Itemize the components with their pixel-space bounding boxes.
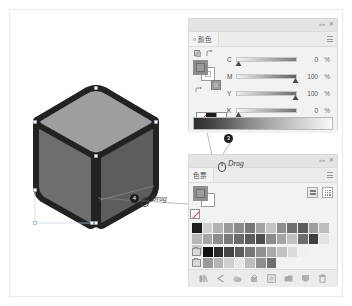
- swatch[interactable]: [203, 247, 213, 257]
- swatch[interactable]: [224, 223, 234, 233]
- color-panel-window-buttons[interactable]: »» ✕: [319, 20, 334, 29]
- swatch[interactable]: [213, 223, 223, 233]
- swatch[interactable]: [234, 234, 244, 244]
- fill-swatch[interactable]: [193, 60, 208, 75]
- edit-swatch-icon[interactable]: [250, 274, 259, 283]
- swatch[interactable]: [213, 234, 223, 244]
- color-group-folder-icon[interactable]: [192, 248, 201, 256]
- swatch[interactable]: [266, 234, 276, 244]
- close-icon[interactable]: ✕: [329, 156, 334, 165]
- swatch[interactable]: [277, 234, 287, 244]
- swatch[interactable]: [267, 247, 277, 257]
- delete-swatch-icon[interactable]: [318, 274, 327, 283]
- new-swatch-icon[interactable]: [301, 274, 310, 283]
- new-swatch-folder-icon[interactable]: [284, 274, 293, 283]
- slider-row-y[interactable]: Y 100 %: [227, 85, 334, 102]
- slider-track-c[interactable]: [236, 57, 297, 62]
- default-fill-stroke-button[interactable]: [211, 80, 221, 90]
- slider-value-k[interactable]: 0: [302, 107, 318, 114]
- swatch[interactable]: [266, 223, 276, 233]
- swatch[interactable]: [267, 258, 277, 268]
- swatch[interactable]: [245, 247, 255, 257]
- color-group-folder-icon[interactable]: [192, 259, 201, 267]
- chevrons-right-icon[interactable]: »»: [319, 20, 325, 29]
- slider-row-m[interactable]: M 100 %: [227, 68, 334, 85]
- swatch[interactable]: [234, 223, 244, 233]
- slider-value-y[interactable]: 100: [302, 90, 318, 97]
- fill-stroke-widget[interactable]: [193, 60, 218, 82]
- color-panel-titlebar[interactable]: »» ✕: [189, 19, 337, 32]
- panel-menu-icon[interactable]: [327, 172, 333, 178]
- swatch-libraries-icon[interactable]: [199, 274, 208, 283]
- slider-track-y[interactable]: [236, 91, 297, 96]
- new-color-group-icon[interactable]: [267, 274, 276, 283]
- swatch[interactable]: [192, 223, 202, 233]
- slider-thumb-y[interactable]: [293, 95, 299, 100]
- swatch-group-row-2[interactable]: [192, 258, 334, 268]
- swatch-group-row-1[interactable]: [192, 247, 334, 257]
- swatch-view-modes[interactable]: [307, 187, 333, 198]
- slider-thumb-m[interactable]: [293, 78, 299, 83]
- swatch[interactable]: [309, 223, 319, 233]
- swatches-panel-titlebar[interactable]: »» ✕: [189, 155, 337, 168]
- swatch[interactable]: [224, 234, 234, 244]
- swatches-panel[interactable]: »» ✕ 色票: [188, 154, 338, 286]
- swatch[interactable]: [277, 247, 287, 257]
- swatches-none-button[interactable]: [190, 209, 200, 219]
- swatch[interactable]: [319, 234, 329, 244]
- slider-track-k[interactable]: [236, 108, 297, 113]
- swatch[interactable]: [203, 234, 213, 244]
- swatch[interactable]: [245, 258, 255, 268]
- fill-indicator-icon[interactable]: [194, 50, 201, 57]
- swatch[interactable]: [256, 223, 266, 233]
- swap-fill-stroke-icon[interactable]: [195, 80, 203, 88]
- color-spectrum-wrap[interactable]: [193, 117, 333, 130]
- cmyk-sliders[interactable]: C 0 % M 100 % Y: [227, 51, 334, 119]
- swatch[interactable]: [309, 234, 319, 244]
- grid-view-icon[interactable]: [322, 187, 333, 198]
- swatch[interactable]: [214, 247, 224, 257]
- swatch[interactable]: [256, 234, 266, 244]
- swatch[interactable]: [287, 223, 297, 233]
- swatches-bottom-toolbar[interactable]: [189, 269, 337, 287]
- list-view-icon[interactable]: [307, 187, 318, 198]
- swatch[interactable]: [214, 258, 224, 268]
- tab-swatches[interactable]: 色票: [189, 168, 214, 182]
- close-icon[interactable]: ✕: [329, 20, 334, 29]
- swatch[interactable]: [245, 234, 255, 244]
- swatch[interactable]: [235, 247, 245, 257]
- swatch[interactable]: [298, 247, 308, 257]
- color-panel-tabbar[interactable]: 颜色: [189, 32, 337, 47]
- swatches-panel-window-buttons[interactable]: »» ✕: [319, 156, 334, 165]
- swatches-fill-stroke-widget[interactable]: [193, 186, 219, 208]
- swatch[interactable]: [245, 223, 255, 233]
- swatch[interactable]: [256, 247, 266, 257]
- swatch[interactable]: [203, 223, 213, 233]
- slider-thumb-c[interactable]: [235, 61, 241, 66]
- slider-value-m[interactable]: 100: [302, 73, 318, 80]
- swatches-fill-swatch[interactable]: [193, 186, 208, 201]
- swatches-panel-tabbar[interactable]: 色票: [189, 168, 337, 183]
- swatch[interactable]: [287, 234, 297, 244]
- stroke-indicator-icon[interactable]: [206, 50, 213, 57]
- swatch[interactable]: [203, 258, 213, 268]
- slider-row-c[interactable]: C 0 %: [227, 51, 334, 68]
- swatch[interactable]: [256, 258, 266, 268]
- cube-artwork[interactable]: [22, 82, 170, 230]
- chevrons-right-icon[interactable]: »»: [319, 156, 325, 165]
- swatch[interactable]: [224, 258, 234, 268]
- slider-value-c[interactable]: 0: [302, 56, 318, 63]
- tab-color[interactable]: 颜色: [189, 32, 219, 46]
- swatch[interactable]: [224, 247, 234, 257]
- color-group-icon[interactable]: [233, 274, 242, 283]
- swatch[interactable]: [319, 223, 329, 233]
- swatch[interactable]: [288, 247, 298, 257]
- slider-track-m[interactable]: [236, 74, 297, 79]
- color-panel[interactable]: »» ✕ 颜色: [188, 18, 338, 131]
- color-spectrum-bar[interactable]: [193, 117, 333, 130]
- swatch[interactable]: [298, 234, 308, 244]
- swatch[interactable]: [192, 234, 202, 244]
- swatch[interactable]: [298, 223, 308, 233]
- swatch[interactable]: [277, 223, 287, 233]
- show-swatch-kinds-icon[interactable]: [216, 274, 225, 283]
